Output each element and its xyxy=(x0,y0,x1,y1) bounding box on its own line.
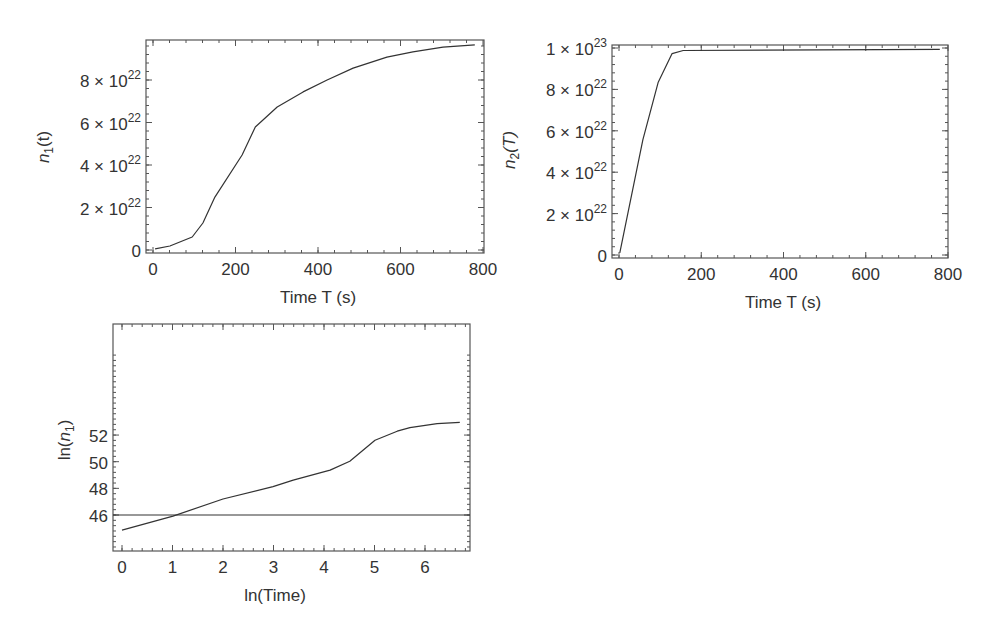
x-axis-label: ln(Time) xyxy=(244,586,306,605)
x-tick-label: 0 xyxy=(614,265,623,284)
x-tick-label: 2 xyxy=(218,558,227,577)
y-tick-label: 0 xyxy=(132,242,141,261)
x-tick-label: 0 xyxy=(117,558,126,577)
y-axis-label: n2(T) xyxy=(500,131,522,169)
y-tick-labels: 02 × 10224 × 10226 × 10228 × 1022 xyxy=(80,68,141,261)
y-tick-label: 52 xyxy=(89,427,108,446)
y-tick-label: 2 × 1022 xyxy=(546,202,607,225)
chart-n2-vs-time: 02 × 10224 × 10226 × 10228 × 10221 × 102… xyxy=(500,36,962,312)
y-tick-label: 0 xyxy=(598,247,607,266)
y-axis-label: ln(n1) xyxy=(55,420,77,461)
y-tick-label: 46 xyxy=(89,507,108,526)
x-tick-label: 4 xyxy=(319,558,328,577)
x-axis-label: Time T (s) xyxy=(280,288,356,307)
series-line xyxy=(155,45,475,249)
x-tick-label: 600 xyxy=(386,260,414,279)
y-tick-label: 8 × 1022 xyxy=(546,77,607,100)
ticks xyxy=(146,40,484,253)
x-tick-labels: 0200400600800 xyxy=(614,265,962,284)
x-tick-labels: 0200400600800 xyxy=(148,260,497,279)
ticks xyxy=(113,324,470,551)
x-tick-label: 400 xyxy=(304,260,332,279)
plot-frame xyxy=(113,324,470,551)
figure: 02 × 10224 × 10226 × 10228 × 1022 020040… xyxy=(0,0,985,620)
y-tick-label: 8 × 1022 xyxy=(80,68,141,91)
y-axis-label: n1(t) xyxy=(34,131,56,163)
y-tick-label: 4 × 1022 xyxy=(80,153,141,176)
plot-frame xyxy=(146,40,484,253)
ticks xyxy=(612,45,948,258)
x-axis-label: Time T (s) xyxy=(745,293,821,312)
plot-frame xyxy=(612,45,948,258)
y-tick-label: 6 × 1022 xyxy=(80,111,141,134)
y-tick-label: 50 xyxy=(89,454,108,473)
x-tick-label: 5 xyxy=(370,558,379,577)
x-tick-label: 0 xyxy=(148,260,157,279)
y-tick-labels: 46485052 xyxy=(89,427,108,526)
x-tick-label: 3 xyxy=(269,558,278,577)
x-tick-label: 600 xyxy=(852,265,880,284)
y-tick-label: 6 × 1022 xyxy=(546,119,607,142)
x-tick-label: 200 xyxy=(221,260,249,279)
y-tick-labels: 02 × 10224 × 10226 × 10228 × 10221 × 102… xyxy=(546,36,607,266)
chart-ln-n1-vs-ln-time: 46485052 0123456 ln(Time) ln(n1) xyxy=(55,324,470,605)
y-tick-label: 48 xyxy=(89,480,108,499)
series-line xyxy=(122,422,460,530)
x-tick-label: 200 xyxy=(687,265,715,284)
x-tick-label: 800 xyxy=(934,265,962,284)
chart-n1-vs-time: 02 × 10224 × 10226 × 10228 × 1022 020040… xyxy=(34,40,497,307)
x-tick-label: 800 xyxy=(469,260,497,279)
series-line xyxy=(620,49,940,253)
x-tick-label: 6 xyxy=(420,558,429,577)
x-tick-label: 1 xyxy=(168,558,177,577)
y-tick-label: 2 × 1022 xyxy=(80,196,141,219)
x-tick-label: 400 xyxy=(769,265,797,284)
y-tick-label: 4 × 1022 xyxy=(546,160,607,183)
x-tick-labels: 0123456 xyxy=(117,558,429,577)
y-tick-label: 1 × 1023 xyxy=(546,36,607,59)
